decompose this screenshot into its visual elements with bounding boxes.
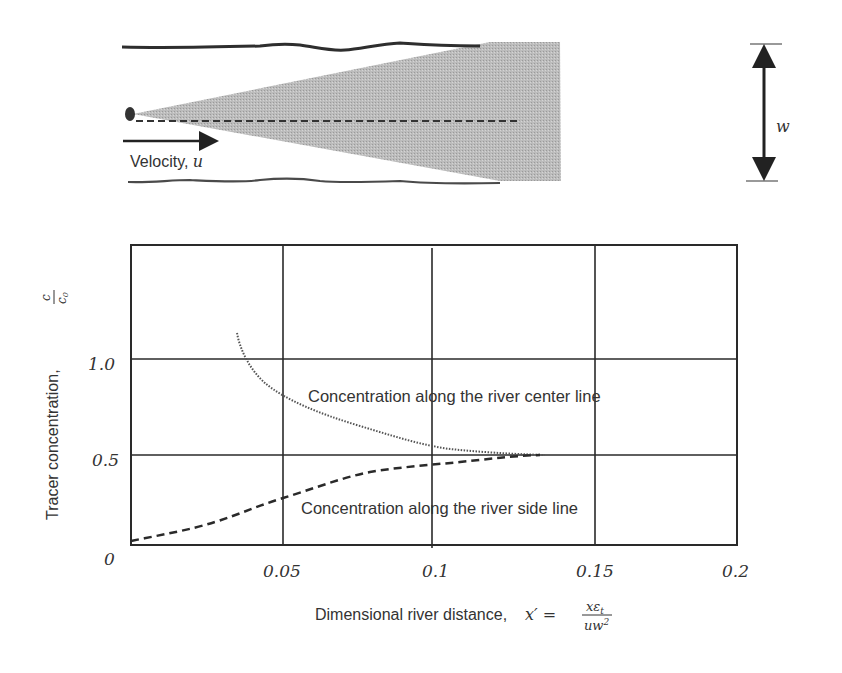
y-tick-label: 1.0: [88, 354, 115, 374]
svg-text:Dimensional river distance,: Dimensional river distance,: [315, 606, 507, 623]
x-tick-label: 0.15: [576, 561, 614, 581]
svg-text:xεt: xεt: [586, 599, 604, 616]
tracer-source-icon: [125, 107, 135, 121]
velocity-label: Velocity, u: [130, 152, 203, 171]
x-tick-label: 0.2: [722, 561, 749, 581]
svg-text:uw2: uw2: [584, 617, 610, 633]
river-diagram: Velocity, u w: [122, 40, 790, 183]
x-tick-label: 0.1: [422, 561, 449, 581]
river-bank-top: [122, 43, 480, 50]
x-axis-label: Dimensional river distance, x′ = xεt uw2: [315, 599, 612, 633]
x-tick-label: 0.05: [263, 561, 301, 581]
y-axis-label: Tracer concentration, c c0: [39, 290, 70, 520]
svg-text:x′ =: x′ =: [525, 605, 556, 624]
side-line-annotation: Concentration along the river side line: [301, 499, 578, 517]
y-tick-label: 0: [104, 549, 115, 569]
chart: Concentration along the river center lin…: [39, 245, 749, 633]
y-tick-label: 0.5: [92, 450, 119, 470]
series-side-line: [131, 455, 540, 541]
river-bank-bottom: [128, 179, 500, 184]
svg-text:Tracer concentration,: Tracer concentration,: [44, 369, 61, 520]
figure: Velocity, u w Concentration along the ri…: [0, 0, 842, 673]
svg-text:c0: c0: [55, 292, 70, 304]
center-line-annotation: Concentration along the river center lin…: [308, 387, 601, 405]
svg-text:c: c: [39, 294, 53, 301]
width-symbol: w: [776, 117, 790, 136]
